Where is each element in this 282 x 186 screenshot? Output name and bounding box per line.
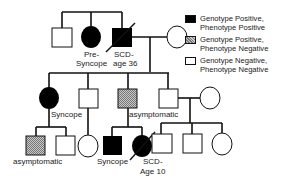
gen1-unaffected-male <box>52 28 72 47</box>
gen3-carrier-male <box>26 136 45 155</box>
gen2-unaffected-male-right <box>159 89 178 108</box>
label: SCD- <box>143 157 163 166</box>
label: Pre- <box>84 50 99 59</box>
legend-item-unaffected: Genotype Negative,Phenotype Negative <box>185 56 282 74</box>
gen3-unaffected-female <box>212 133 232 155</box>
label: age 36 <box>113 59 138 68</box>
label: SCD- <box>114 50 134 59</box>
gen1-spouse-female <box>167 26 187 48</box>
gen1-affected-male-deceased <box>112 28 132 47</box>
label: asymptomatic <box>129 110 178 119</box>
gen3-affected-male <box>103 136 122 155</box>
gen2-affected-female <box>39 87 59 109</box>
legend-text: Genotype Negative, <box>200 56 267 65</box>
filled-square-icon <box>185 15 196 23</box>
legend-text: Genotype Positive, <box>200 35 264 44</box>
hatched-square-icon <box>185 36 196 44</box>
legend-text: Phenotype Negative <box>200 44 268 53</box>
legend-text: Phenotype Negative <box>200 65 268 74</box>
gen1-affected-female <box>81 26 101 48</box>
legend-text: Phenotype Positive <box>200 23 265 32</box>
label: asymptomatic <box>13 157 62 166</box>
gen3-spouse-female <box>78 135 98 157</box>
legend-item-affected: Genotype Positive,Phenotype Positive <box>185 14 282 32</box>
legend: Genotype Positive,Phenotype Positive Gen… <box>185 14 282 77</box>
empty-square-icon <box>185 57 196 65</box>
legend-item-carrier: Genotype Positive,Phenotype Negative <box>185 35 282 53</box>
label: Age 10 <box>140 167 166 176</box>
label: Syncope <box>76 59 108 68</box>
gen3-unaffected-male <box>56 136 75 155</box>
gen2-unaffected-male <box>79 89 98 108</box>
label: Syncope <box>51 110 83 119</box>
label: Syncope <box>97 157 129 166</box>
gen2-spouse-female <box>200 87 220 109</box>
legend-text: Genotype Positive, <box>200 14 264 23</box>
gen2-carrier-male <box>118 89 137 108</box>
gen3-unaffected-male-b <box>183 134 202 153</box>
gen3-unaffected-male-a <box>152 134 172 153</box>
